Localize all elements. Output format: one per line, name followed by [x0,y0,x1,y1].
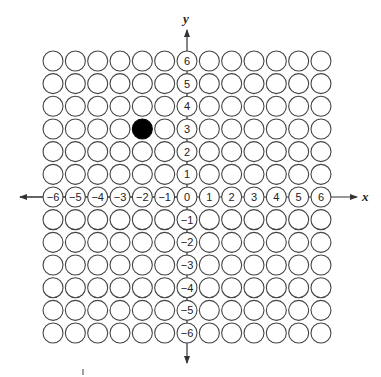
grid-circle[interactable] [311,323,331,343]
grid-circle[interactable] [43,210,63,230]
grid-circle[interactable] [110,119,130,139]
grid-circle[interactable] [65,278,85,298]
grid-circle[interactable] [132,74,152,94]
grid-circle[interactable] [266,74,286,94]
grid-circle[interactable] [244,232,264,252]
grid-circle[interactable] [110,300,130,320]
grid-circle[interactable] [289,300,309,320]
grid-circle[interactable] [110,74,130,94]
grid-circle[interactable] [311,119,331,139]
grid-circle[interactable] [244,96,264,116]
grid-circle[interactable] [311,300,331,320]
grid-circle[interactable] [311,142,331,162]
grid-circle[interactable] [244,210,264,230]
grid-circle[interactable] [199,96,219,116]
grid-circle[interactable] [222,119,242,139]
grid-circle[interactable] [132,210,152,230]
grid-circle[interactable] [132,278,152,298]
grid-circle[interactable] [132,232,152,252]
grid-circle[interactable] [88,96,108,116]
grid-circle[interactable] [155,119,175,139]
grid-circle[interactable] [199,255,219,275]
grid-circle[interactable] [244,278,264,298]
grid-circle[interactable] [289,278,309,298]
grid-circle[interactable] [43,51,63,71]
grid-circle[interactable] [43,96,63,116]
grid-circle[interactable] [266,255,286,275]
grid-circle[interactable] [65,164,85,184]
grid-circle[interactable] [155,51,175,71]
grid-circle[interactable] [43,142,63,162]
grid-circle[interactable] [155,232,175,252]
grid-circle[interactable] [43,119,63,139]
grid-circle[interactable] [266,232,286,252]
grid-circle[interactable] [289,96,309,116]
grid-circle[interactable] [244,323,264,343]
grid-circle[interactable] [311,51,331,71]
grid-circle[interactable] [199,323,219,343]
grid-circle[interactable] [155,255,175,275]
grid-circle[interactable] [110,51,130,71]
grid-circle[interactable] [266,119,286,139]
grid-circle[interactable] [88,119,108,139]
filled-point[interactable] [132,119,152,139]
grid-circle[interactable] [222,96,242,116]
grid-circle[interactable] [222,51,242,71]
grid-circle[interactable] [132,323,152,343]
grid-circle[interactable] [311,278,331,298]
grid-circle[interactable] [199,164,219,184]
grid-circle[interactable] [155,96,175,116]
grid-circle[interactable] [110,164,130,184]
grid-circle[interactable] [199,278,219,298]
grid-circle[interactable] [199,142,219,162]
grid-circle[interactable] [222,232,242,252]
grid-circle[interactable] [289,164,309,184]
grid-circle[interactable] [244,300,264,320]
grid-circle[interactable] [244,51,264,71]
grid-circle[interactable] [266,96,286,116]
grid-circle[interactable] [65,96,85,116]
grid-circle[interactable] [222,74,242,94]
grid-circle[interactable] [88,232,108,252]
grid-circle[interactable] [199,119,219,139]
grid-circle[interactable] [88,74,108,94]
grid-circle[interactable] [311,96,331,116]
grid-circle[interactable] [65,119,85,139]
grid-circle[interactable] [132,300,152,320]
grid-circle[interactable] [289,232,309,252]
grid-circle[interactable] [88,164,108,184]
grid-circle[interactable] [266,142,286,162]
grid-circle[interactable] [222,300,242,320]
grid-circle[interactable] [266,210,286,230]
grid-circle[interactable] [110,232,130,252]
grid-circle[interactable] [43,300,63,320]
grid-circle[interactable] [43,323,63,343]
grid-circle[interactable] [222,142,242,162]
grid-circle[interactable] [110,323,130,343]
grid-circle[interactable] [289,323,309,343]
grid-circle[interactable] [88,323,108,343]
grid-circle[interactable] [222,164,242,184]
grid-circle[interactable] [244,119,264,139]
grid-circle[interactable] [65,232,85,252]
grid-circle[interactable] [289,74,309,94]
grid-circle[interactable] [266,300,286,320]
grid-circle[interactable] [88,255,108,275]
grid-circle[interactable] [222,210,242,230]
grid-circle[interactable] [266,323,286,343]
grid-circle[interactable] [110,210,130,230]
grid-circle[interactable] [132,51,152,71]
grid-circle[interactable] [289,51,309,71]
grid-circle[interactable] [222,323,242,343]
grid-circle[interactable] [155,300,175,320]
grid-circle[interactable] [199,74,219,94]
grid-circle[interactable] [244,255,264,275]
grid-circle[interactable] [65,210,85,230]
grid-circle[interactable] [65,74,85,94]
grid-circle[interactable] [244,74,264,94]
grid-circle[interactable] [110,142,130,162]
grid-circle[interactable] [311,255,331,275]
grid-circle[interactable] [155,278,175,298]
grid-circle[interactable] [199,300,219,320]
grid-circle[interactable] [199,232,219,252]
